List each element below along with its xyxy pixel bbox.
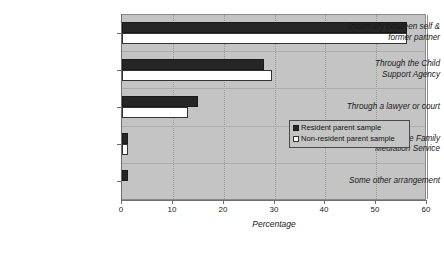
x-axis-tick: [324, 200, 325, 204]
y-axis-line: [121, 14, 122, 201]
x-axis-tick-label: 60: [411, 205, 441, 215]
category-label-line: Through a lawyer or court: [328, 102, 440, 113]
bar-non-resident: [122, 144, 128, 155]
x-axis-tick: [172, 200, 173, 204]
bar-non-resident: [122, 107, 188, 118]
y-axis-tick: [117, 144, 121, 145]
y-axis-tick: [117, 70, 121, 71]
x-axis-tick: [375, 200, 376, 204]
category-label-line: former partner: [328, 33, 440, 44]
legend-item-resident: Resident parent sample: [293, 123, 406, 133]
bar-chart: 0102030405060 Percentage Informally betw…: [0, 0, 444, 253]
x-axis-title: Percentage: [121, 219, 427, 229]
bar-non-resident: [122, 70, 272, 81]
y-axis-tick: [117, 181, 121, 182]
x-axis-tick-label: 20: [208, 205, 238, 215]
x-axis-tick: [274, 200, 275, 204]
legend-item-non-resident: Non-resident parent sample: [293, 134, 406, 144]
category-label: Some other arrangement: [328, 176, 444, 187]
category-label: Through a lawyer or court: [328, 102, 444, 113]
dark-square-swatch-icon: [293, 125, 299, 131]
x-axis-tick: [426, 200, 427, 204]
bar-resident: [122, 96, 198, 107]
category-label-line: Some other arrangement: [328, 176, 440, 187]
category-label-line: Support Agency: [328, 70, 440, 81]
x-axis-tick-label: 0: [106, 205, 136, 215]
x-axis-tick: [223, 200, 224, 204]
x-axis-tick: [121, 200, 122, 204]
x-axis-tick-label: 40: [309, 205, 339, 215]
category-label-line: Informally between self &: [328, 22, 440, 33]
legend-label-resident: Resident parent sample: [301, 123, 381, 133]
white-square-swatch-icon: [293, 136, 299, 142]
y-axis-tick: [117, 33, 121, 34]
x-axis-tick-label: 10: [157, 205, 187, 215]
category-label: Informally between self &former partner: [328, 22, 444, 43]
bar-resident: [122, 170, 128, 181]
y-axis-tick: [117, 107, 121, 108]
chart-legend: Resident parent sample Non-resident pare…: [289, 120, 410, 148]
bar-resident: [122, 59, 264, 70]
legend-label-non-resident: Non-resident parent sample: [301, 134, 395, 144]
x-axis-tick-label: 50: [360, 205, 390, 215]
bar-resident: [122, 133, 128, 144]
x-axis-tick-label: 30: [259, 205, 289, 215]
category-label: Through the ChildSupport Agency: [328, 59, 444, 80]
category-label-line: Through the Child: [328, 59, 440, 70]
